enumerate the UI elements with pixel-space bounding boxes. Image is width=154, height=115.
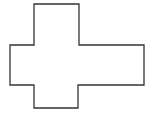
diagram-canvas [0, 0, 154, 115]
cross-shape [10, 4, 144, 108]
